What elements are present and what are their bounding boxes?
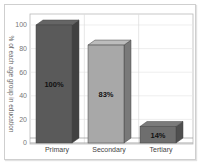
- y-axis-label: % of each age group in education: [7, 36, 15, 133]
- bar-value-label: 100%: [44, 80, 64, 89]
- y-tick-label: 100: [15, 21, 27, 28]
- y-tick-label: 0: [23, 139, 27, 146]
- x-category-label: Primary: [45, 146, 70, 154]
- bar-side: [72, 20, 79, 143]
- x-axis: PrimarySecondaryTertiary: [45, 146, 173, 154]
- y-tick-label: 20: [19, 116, 27, 123]
- bar-chart: 020406080100 % of each age group in educ…: [0, 0, 198, 162]
- bar-top: [140, 121, 183, 126]
- y-tick-label: 60: [19, 69, 27, 76]
- bar-value-label: 14%: [150, 131, 165, 140]
- bar-side: [124, 40, 131, 143]
- y-axis: 020406080100: [15, 21, 27, 146]
- bar-secondary: 83%: [88, 40, 131, 143]
- bar-value-label: 83%: [98, 90, 113, 99]
- x-category-label: Secondary: [92, 146, 126, 154]
- y-tick-label: 80: [19, 45, 27, 52]
- x-category-label: Tertiary: [150, 146, 173, 154]
- bar-top: [88, 40, 131, 45]
- y-tick-label: 40: [19, 92, 27, 99]
- bar-tertiary: 14%: [140, 121, 183, 143]
- bar-top: [36, 20, 79, 25]
- bar-primary: 100%: [36, 20, 79, 143]
